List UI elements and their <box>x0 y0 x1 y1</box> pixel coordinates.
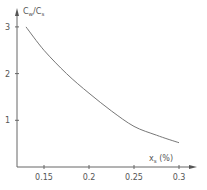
y-tick-label: 2 <box>5 70 10 79</box>
x-ticks: 0.150.20.250.3 <box>35 165 185 182</box>
x-tick-label: 0.3 <box>173 173 186 182</box>
data-curve <box>26 27 179 143</box>
x-axis-title: xs (%) <box>149 154 173 164</box>
x-tick-label: 0.25 <box>125 173 143 182</box>
y-axis: 123 <box>5 8 19 167</box>
y-tick-label: 3 <box>5 23 10 32</box>
y-axis-arrow-icon <box>15 8 19 16</box>
y-tick-label: 1 <box>5 116 10 125</box>
chart: 123 0.150.20.250.3 Cw/Cs xs (%) <box>0 0 207 190</box>
x-tick-label: 0.15 <box>35 173 53 182</box>
x-tick-label: 0.2 <box>83 173 96 182</box>
x-axis-arrow-icon <box>189 165 197 169</box>
x-axis: 0.150.20.250.3 <box>17 165 197 182</box>
y-axis-title: Cw/Cs <box>23 7 44 17</box>
